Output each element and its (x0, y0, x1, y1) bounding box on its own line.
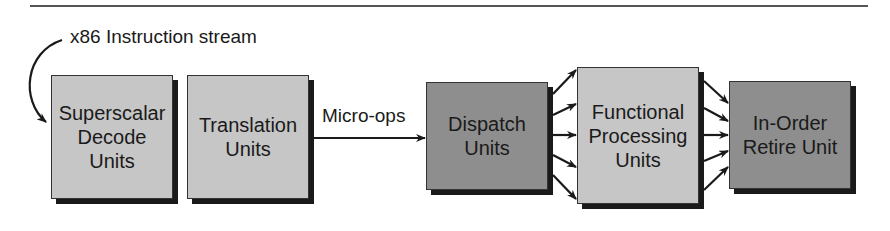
connector-arrows (0, 0, 890, 231)
curved-input-arrow (30, 40, 62, 122)
